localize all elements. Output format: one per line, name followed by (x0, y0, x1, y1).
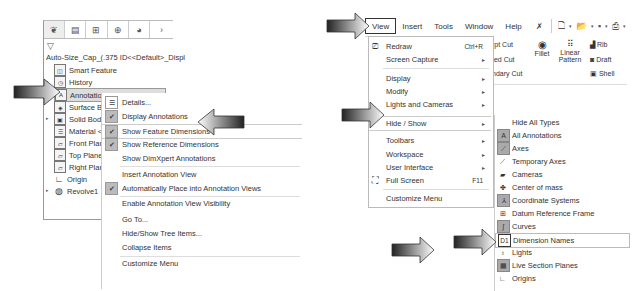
menu-separator (383, 189, 489, 190)
section-plane-icon: ▦ (497, 259, 510, 272)
tab-more[interactable]: › (150, 21, 173, 38)
menu-separator (120, 166, 300, 167)
ribbon-label-lofted-cut[interactable]: ted Cut (492, 56, 515, 63)
draft-button[interactable]: ◙ Draft (590, 56, 611, 63)
display-manager-icon: ◕ (136, 25, 141, 35)
menu-item-workspace[interactable]: Workspace▸ (369, 148, 491, 161)
ribbon-label-swept-cut[interactable]: rpt Cut (492, 41, 513, 48)
temporary-axes-icon: ⟋ (497, 156, 508, 167)
tree-item-origin[interactable]: ∟Origin (54, 173, 87, 185)
menu-insert[interactable]: Insert (396, 19, 428, 33)
menu-item-axes[interactable]: ⟋Axes (495, 142, 628, 155)
menu-item-go-to[interactable]: Go To... (102, 213, 302, 226)
plane-icon: ▱ (54, 149, 66, 161)
menu-item-lights[interactable]: ♁Lights (495, 246, 628, 259)
datum-reference-frame-icon: ⊞ (497, 208, 508, 219)
menu-item-datum-reference-frame[interactable]: ⊞Datum Reference Frame (495, 207, 628, 220)
fillet-icon: ◉ (530, 39, 554, 50)
menu-item-display[interactable]: Display▸ (369, 72, 491, 85)
menu-item-live-section-planes[interactable]: ▦Live Section Planes (495, 259, 628, 272)
checkmark-icon: ✔ (105, 138, 118, 151)
checkmark-icon: ✔ (105, 110, 118, 123)
smart-feature-icon: ◫ (54, 64, 66, 76)
checkmark-icon: ✔ (105, 182, 118, 195)
menu-item-insert-annotation-view[interactable]: Insert Annotation View (102, 168, 302, 181)
menu-item-screen-capture[interactable]: Screen Capture▸ (369, 53, 491, 66)
menu-item-auto-place-annotation-views[interactable]: ✔Automatically Place into Annotation Vie… (102, 182, 302, 195)
menu-item-curves[interactable]: ∫Curves (495, 220, 628, 233)
tree-item-right-plane[interactable]: ▱Right Plane (54, 161, 108, 173)
menu-item-customize-menu[interactable]: Customize Menu (102, 257, 302, 270)
menu-help[interactable]: Help (499, 19, 527, 33)
save-icon[interactable]: ▪ (598, 21, 601, 31)
menu-item-all-annotations[interactable]: AAll Annotations (495, 129, 628, 142)
tab-feature-manager[interactable]: ❦ (44, 21, 65, 38)
axes-icon: ⟋ (497, 142, 510, 155)
print-icon[interactable]: ⎙ (612, 21, 619, 32)
menu-item-redraw[interactable]: ⎚RedrawCtrl+R (369, 40, 491, 53)
open-icon[interactable]: 📂 (576, 21, 587, 31)
camera-icon: ▰ (497, 169, 508, 180)
hide-show-submenu: Hide All Types AAll Annotations ⟋Axes ⟋T… (494, 115, 628, 291)
pointer-arrow-right-icon (390, 236, 436, 264)
center-of-mass-icon: ✤ (497, 182, 508, 193)
menu-item-customize-menu[interactable]: Customize Menu (369, 192, 491, 205)
menu-item-hide-show[interactable]: Hide / Show▸ (369, 116, 491, 131)
curves-icon: ∫ (497, 220, 510, 233)
linear-pattern-icon: ⠿ (556, 39, 584, 49)
menu-item-collapse-items[interactable]: Collapse Items (102, 241, 302, 254)
tree-item-top-plane[interactable]: ▱Top Plane (54, 149, 102, 161)
pin-icon[interactable]: ✗ (528, 19, 551, 33)
plane-icon: ▱ (54, 161, 66, 173)
new-document-icon[interactable]: 🗋 (558, 18, 565, 34)
tree-item-revolve1[interactable]: ◍Revolve1 (54, 185, 98, 197)
configuration-manager-icon: ⊞ (92, 25, 100, 35)
menu-item-show-dimxpert-annotations[interactable]: Show DimXpert Annotations (102, 152, 302, 165)
menu-window[interactable]: Window (459, 19, 499, 33)
part-name[interactable]: Auto-Size_Cap_(.375 ID<<Default>_Displ (46, 53, 185, 62)
menu-item-user-interface[interactable]: User Interface▸ (369, 161, 491, 174)
dimxpert-icon: ⊕ (114, 25, 122, 35)
fillet-button[interactable]: ◉Fillet (530, 39, 554, 57)
filter-icon[interactable]: ▽ (47, 41, 54, 51)
menu-item-cameras[interactable]: ▰Cameras (495, 168, 628, 181)
menu-item-origins[interactable]: ∟Origins (495, 272, 628, 285)
tab-property-manager[interactable]: ▤ (65, 21, 86, 38)
tree-item-front-plane[interactable]: ▱Front Plane (54, 137, 108, 149)
origin-icon: ∟ (497, 273, 508, 284)
revolve-icon: ◍ (54, 186, 64, 196)
menu-item-center-of-mass[interactable]: ✤Center of mass (495, 181, 628, 194)
expand-arrow-icon[interactable]: ▸ (46, 115, 49, 121)
view-menu-dropdown: ⎚RedrawCtrl+R Screen Capture▸ Display▸ M… (368, 36, 494, 208)
submenu-arrow-icon: ▸ (482, 88, 485, 95)
menu-item-coordinate-systems[interactable]: ⅄Coordinate Systems (495, 194, 628, 207)
list-icon: ☰ (105, 96, 118, 109)
menu-tools[interactable]: Tools (428, 19, 459, 33)
menu-separator (383, 68, 489, 69)
tab-configuration-manager[interactable]: ⊞ (86, 21, 107, 38)
menu-item-show-reference-dimensions[interactable]: ✔Show Reference Dimensions (102, 138, 302, 151)
fullscreen-icon: ⛶ (372, 175, 378, 186)
menu-item-lights-and-cameras[interactable]: Lights and Cameras▸ (369, 98, 491, 111)
menu-item-full-screen[interactable]: ⛶Full ScreenF11 (369, 174, 491, 187)
menu-item-hide-all-types[interactable]: Hide All Types (495, 116, 628, 129)
submenu-arrow-icon: ▸ (482, 151, 485, 158)
menu-item-temporary-axes[interactable]: ⟋Temporary Axes (495, 155, 628, 168)
submenu-arrow-icon: ▸ (482, 137, 485, 144)
light-bulb-icon: ♁ (497, 247, 508, 258)
feature-manager-tabs: ❦ ▤ ⊞ ⊕ ◕ › (44, 21, 173, 39)
menu-item-modify[interactable]: Modify▸ (369, 85, 491, 98)
submenu-arrow-icon: ▸ (482, 75, 485, 82)
tab-dimxpert-manager[interactable]: ⊕ (108, 21, 129, 38)
shell-button[interactable]: ▣ Shell (590, 70, 615, 78)
tree-item-smart-feature[interactable]: ◫Smart Feature (54, 64, 117, 76)
expand-arrow-icon[interactable]: ▸ (46, 187, 49, 193)
tab-display-manager[interactable]: ◕ (129, 21, 150, 38)
menu-item-toolbars[interactable]: Toolbars▸ (369, 134, 491, 147)
menu-item-enable-annotation-view-visibility[interactable]: Enable Annotation View Visibility (102, 197, 302, 210)
redraw-icon: ⎚ (372, 42, 378, 52)
linear-pattern-button[interactable]: ⠿Linear Pattern (556, 39, 584, 63)
menu-item-hide-show-tree-items[interactable]: Hide/Show Tree Items... (102, 227, 302, 240)
rib-button[interactable]: ▟ Rib (590, 41, 607, 49)
ribbon-label-boundary-cut[interactable]: ndary Cut (492, 70, 522, 77)
